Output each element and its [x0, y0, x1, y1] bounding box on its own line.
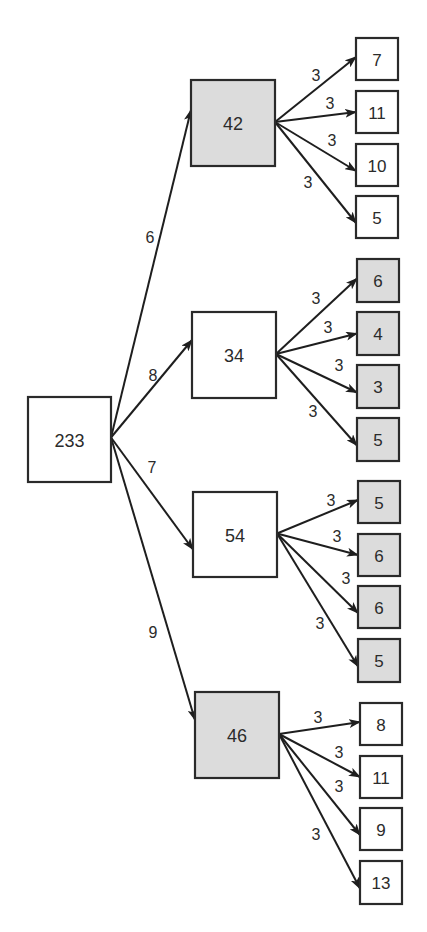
edge-weight-label-branch-1-leaf-1: 3: [312, 67, 321, 84]
branch-node-2-value: 34: [224, 346, 244, 366]
leaf-node-3-1: 5: [358, 481, 400, 523]
leaf-node-4-3: 9: [360, 808, 402, 850]
leaf-node-3-4: 5: [358, 639, 400, 682]
leaf-node-2-2: 4: [357, 312, 399, 355]
leaf-node-3-2-value: 6: [374, 547, 383, 566]
root-node: 233: [28, 397, 111, 482]
edge-weight-label-branch-1-leaf-4: 3: [304, 174, 313, 191]
edge-branch-2-to-leaf-3: [276, 354, 357, 393]
leaf-node-4-4-value: 13: [372, 874, 391, 893]
edge-weight-label-branch-4-leaf-3: 3: [335, 778, 344, 795]
edge-branch-1-to-leaf-4: [275, 122, 356, 223]
edge-root-to-branch-3: [111, 438, 193, 550]
branch-node-4-value: 46: [227, 726, 247, 746]
edge-weight-label-branch-2-leaf-1: 3: [312, 290, 321, 307]
edge-weight-label-branch-1: 6: [146, 229, 155, 246]
branch-node-2: 34: [192, 312, 276, 398]
leaf-node-1-1: 7: [356, 38, 398, 80]
edge-weight-label-branch-2: 8: [149, 367, 158, 384]
leaf-node-2-4: 5: [357, 418, 399, 461]
tree-diagram: 2334271110534643554566546811913 63333833…: [0, 0, 427, 932]
leaf-node-2-1: 6: [357, 259, 399, 302]
leaf-node-1-3-value: 10: [368, 157, 387, 176]
leaf-node-1-4: 5: [356, 196, 398, 238]
leaf-node-1-2: 11: [356, 91, 398, 133]
edge-weight-label-branch-4-leaf-2: 3: [335, 744, 344, 761]
edge-weight-label-branch-2-leaf-2: 3: [324, 319, 333, 336]
leaf-node-4-1: 8: [360, 703, 402, 745]
edge-branch-2-to-leaf-4: [276, 354, 357, 446]
branch-node-1-value: 42: [223, 114, 243, 134]
leaf-node-4-3-value: 9: [376, 821, 385, 840]
leaf-node-3-3-value: 6: [374, 599, 383, 618]
leaf-node-4-2: 11: [360, 756, 402, 798]
edge-weight-label-branch-3-leaf-2: 3: [333, 528, 342, 545]
branch-node-3-value: 54: [225, 526, 245, 546]
leaf-node-1-4-value: 5: [372, 209, 381, 228]
leaf-node-2-3-value: 3: [373, 378, 382, 397]
root-node-value: 233: [54, 431, 84, 451]
edge-weight-label-branch-1-leaf-2: 3: [326, 95, 335, 112]
edge-weight-label-branch-1-leaf-3: 3: [328, 132, 337, 149]
edge-weight-label-branch-3: 7: [148, 459, 157, 476]
edge-branch-3-to-leaf-1: [277, 500, 358, 534]
leaf-node-1-3: 10: [356, 144, 398, 186]
edge-weight-label-branch-4-leaf-4: 3: [312, 826, 321, 843]
edge-weight-label-branch-3-leaf-4: 3: [316, 615, 325, 632]
leaf-node-2-2-value: 4: [373, 325, 382, 344]
edge-weight-label-branch-2-leaf-4: 3: [309, 403, 318, 420]
edge-weight-label-branch-4: 9: [149, 624, 158, 641]
edge-weight-label-branch-3-leaf-1: 3: [327, 492, 336, 509]
leaf-node-2-4-value: 5: [373, 431, 382, 450]
leaf-node-1-1-value: 7: [372, 51, 381, 70]
branch-node-4: 46: [195, 692, 279, 778]
leaf-node-2-1-value: 6: [373, 272, 382, 291]
leaf-node-2-3: 3: [357, 365, 399, 408]
leaf-node-3-3: 6: [358, 586, 400, 628]
branch-node-1: 42: [191, 80, 275, 166]
leaf-node-3-4-value: 5: [374, 652, 383, 671]
leaf-node-3-2: 6: [358, 534, 400, 576]
leaf-node-3-1-value: 5: [374, 494, 383, 513]
edge-weight-label-branch-3-leaf-3: 3: [342, 570, 351, 587]
leaf-node-4-1-value: 8: [376, 716, 385, 735]
leaf-node-1-2-value: 11: [368, 104, 386, 123]
leaf-node-4-2-value: 11: [372, 769, 390, 788]
edge-branch-1-to-leaf-3: [275, 122, 356, 171]
nodes-layer: 2334271110534643554566546811913: [28, 38, 402, 904]
edge-root-to-branch-4: [111, 438, 195, 721]
edge-weight-label-branch-2-leaf-3: 3: [335, 357, 344, 374]
edge-weight-label-branch-4-leaf-1: 3: [314, 709, 323, 726]
leaf-node-4-4: 13: [360, 861, 402, 904]
edge-branch-4-to-leaf-3: [279, 734, 360, 835]
edge-branch-4-to-leaf-4: [279, 734, 360, 889]
branch-node-3: 54: [193, 492, 277, 577]
